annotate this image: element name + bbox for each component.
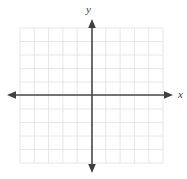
coordinate-plane-figure: y x <box>0 0 187 179</box>
x-axis-arrowhead-right <box>164 91 173 99</box>
x-axis-label: x <box>178 89 183 100</box>
y-axis-arrowhead-bottom <box>88 164 96 173</box>
x-axis <box>7 91 173 99</box>
x-axis-arrowhead-left <box>7 91 16 99</box>
coordinate-plane-svg <box>0 0 187 179</box>
y-axis-arrowhead-top <box>88 19 96 28</box>
y-axis-label: y <box>86 4 91 15</box>
